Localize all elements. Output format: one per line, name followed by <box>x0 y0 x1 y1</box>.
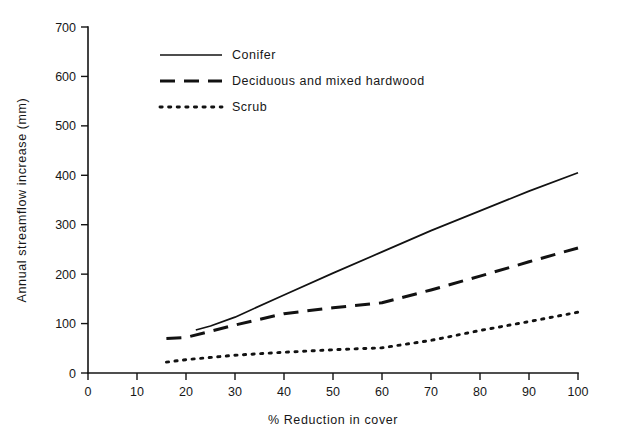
y-axis-title: Annual streamflow increase (mm) <box>15 98 29 303</box>
legend-label-conifer: Conifer <box>232 48 276 62</box>
x-axis-ticks: 0102030405060708090100 <box>85 373 589 399</box>
y-tick-label: 100 <box>55 317 76 331</box>
x-tick-label: 0 <box>85 385 92 399</box>
x-tick-label: 90 <box>522 385 536 399</box>
legend-label-deciduous-and-mixed-hardwood: Deciduous and mixed hardwood <box>232 74 425 88</box>
y-axis-ticks: 0100200300400500600700 <box>55 21 88 381</box>
chart-figure: 0100200300400500600700 01020304050607080… <box>0 0 617 441</box>
x-tick-label: 40 <box>277 385 291 399</box>
x-tick-label: 80 <box>473 385 487 399</box>
x-tick-label: 10 <box>130 385 144 399</box>
x-tick-label: 60 <box>375 385 389 399</box>
y-tick-label: 600 <box>55 70 76 84</box>
series-line-conifer <box>196 173 578 330</box>
x-tick-label: 100 <box>568 385 589 399</box>
x-tick-label: 30 <box>228 385 242 399</box>
x-tick-label: 50 <box>326 385 340 399</box>
y-tick-label: 700 <box>55 21 76 35</box>
y-tick-label: 400 <box>55 169 76 183</box>
y-tick-label: 0 <box>69 367 76 381</box>
y-tick-label: 500 <box>55 119 76 133</box>
x-tick-label: 20 <box>179 385 193 399</box>
x-tick-label: 70 <box>424 385 438 399</box>
y-tick-label: 200 <box>55 268 76 282</box>
chart-legend: ConiferDeciduous and mixed hardwoodScrub <box>160 48 425 114</box>
data-series-group <box>166 173 578 362</box>
y-tick-label: 300 <box>55 218 76 232</box>
line-chart: 0100200300400500600700 01020304050607080… <box>0 0 617 441</box>
x-axis-title: % Reduction in cover <box>268 413 398 427</box>
legend-label-scrub: Scrub <box>232 100 267 114</box>
